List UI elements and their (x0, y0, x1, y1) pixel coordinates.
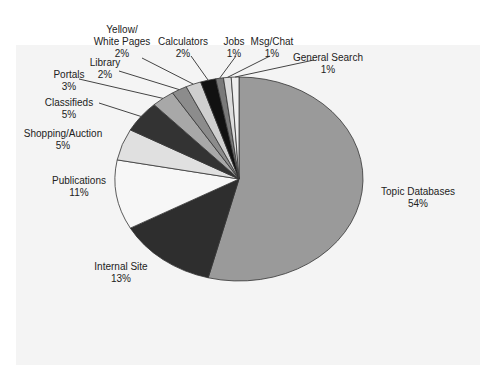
data-label-name: Portals (53, 69, 84, 81)
data-label: Classifieds5% (45, 97, 93, 121)
data-label: Portals3% (53, 69, 84, 93)
data-label-percent: 1% (223, 48, 244, 60)
data-label-percent: 1% (251, 48, 294, 60)
data-label-name: Yellow/ (94, 24, 151, 36)
data-label: Library2% (90, 57, 121, 81)
data-label-name: Internal Site (94, 261, 147, 273)
data-label-percent: 11% (52, 187, 106, 199)
data-label: Jobs1% (223, 36, 244, 60)
data-label: Publications11% (52, 175, 106, 199)
data-label-name: Msg/Chat (251, 36, 294, 48)
data-label-percent: 13% (94, 273, 147, 285)
data-label-percent: 2% (158, 48, 208, 60)
data-label-name: Shopping/Auction (24, 128, 102, 140)
data-label: Calculators2% (158, 36, 208, 60)
leader-line (99, 103, 141, 116)
data-label-percent: 5% (24, 140, 102, 152)
data-label: Topic Databases54% (381, 186, 455, 210)
data-label-percent: 54% (381, 198, 455, 210)
data-label: General Search1% (293, 52, 363, 76)
data-label: Internal Site13% (94, 261, 147, 285)
leader-line (79, 79, 163, 98)
data-label-name: Publications (52, 175, 106, 187)
data-label-name: General Search (293, 52, 363, 64)
data-label-percent: 2% (94, 48, 151, 60)
data-label: Shopping/Auction5% (24, 128, 102, 152)
data-label-percent: 1% (293, 64, 363, 76)
data-label-percent: 3% (53, 81, 84, 93)
leader-line (119, 71, 179, 90)
data-label-name: Jobs (223, 36, 244, 48)
data-label-name: Classifieds (45, 97, 93, 109)
data-label-name: Calculators (158, 36, 208, 48)
data-label-name: Topic Databases (381, 186, 455, 198)
data-label-percent: 5% (45, 109, 93, 121)
data-label: Msg/Chat1% (251, 36, 294, 60)
data-label-percent: 2% (90, 69, 121, 81)
data-label-name-line2: White Pages (94, 36, 151, 48)
data-label: Yellow/White Pages2% (94, 24, 151, 60)
